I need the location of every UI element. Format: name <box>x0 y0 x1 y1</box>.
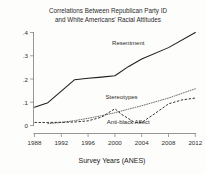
y-tick-label-1: .1 <box>23 99 29 106</box>
y-tick-label-2: .2 <box>23 76 29 83</box>
x-tick-label-1992: 1992 <box>54 139 68 146</box>
series-label-anti-black-affect: Anti-black Affect <box>107 119 150 125</box>
chart-figure: Correlations Between Republican Party ID… <box>0 0 205 174</box>
x-tick-label-2004: 2004 <box>135 139 149 146</box>
chart-title-line-1: Correlations Between Republican Party ID <box>49 7 167 15</box>
y-tick-label-4: .4 <box>23 29 29 36</box>
y-axis-ticks: .4 .3 .2 .1 0 <box>23 29 34 129</box>
x-tick-label-1988: 1988 <box>28 139 42 146</box>
x-axis-title: Survey Years (ANES) <box>79 157 146 165</box>
x-tick-label-2012: 2012 <box>188 139 202 146</box>
y-tick-label-0: 0 <box>25 122 29 129</box>
series-label-resentment: Resentment <box>112 40 145 46</box>
x-axis-ticks: 1988 1992 1996 2000 2004 2008 2012 <box>28 134 203 146</box>
x-tick-label-1996: 1996 <box>81 139 95 146</box>
chart-title-line-2: and White Americans' Racial Attitudes <box>55 16 161 23</box>
y-tick-label-3: .3 <box>23 52 29 59</box>
x-tick-label-2008: 2008 <box>162 139 176 146</box>
series-label-stereotypes: Stereotypes <box>106 94 138 100</box>
chart-svg: Correlations Between Republican Party ID… <box>0 0 205 174</box>
x-tick-label-2000: 2000 <box>108 139 122 146</box>
